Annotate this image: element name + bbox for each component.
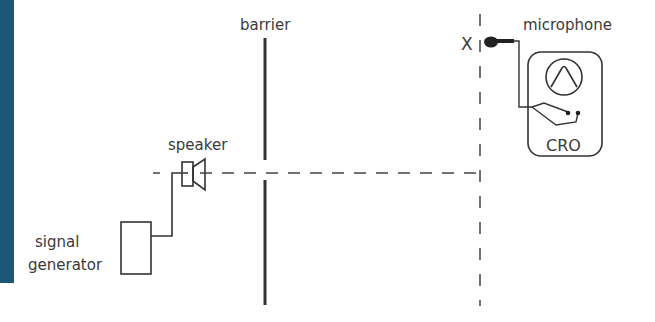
point-x-label: X [461,34,473,54]
speaker-icon [182,159,205,190]
cro-terminal-1 [566,111,571,116]
waveform-icon [551,67,577,88]
microphone-label: microphone [523,16,612,34]
signal-generator [121,222,151,274]
speaker-label: speaker [168,136,228,154]
signal-generator-label-line2: generator [28,256,103,274]
barrier-label: barrier [240,16,291,34]
cro-label: CRO [546,136,581,155]
signal-generator-label-line1: signal [35,233,79,251]
cro-terminal-2 [576,111,581,116]
microphone-icon [484,37,514,48]
cro-screen [546,59,582,95]
microphone-cro-wire [513,41,532,107]
side-stripe [0,0,14,283]
sound-barrier-diagram: signal generator speaker barrier X micro… [0,0,655,322]
